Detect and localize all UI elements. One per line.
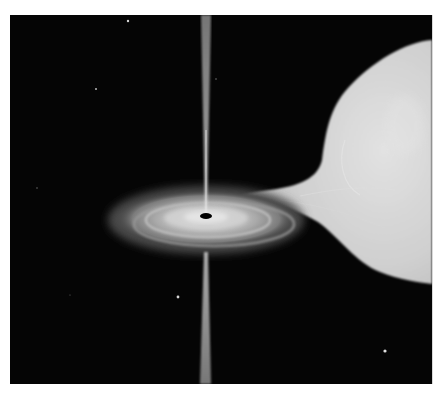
star-icon xyxy=(95,88,97,90)
illustration-svg xyxy=(10,15,432,384)
star-icon xyxy=(383,349,386,352)
space-illustration xyxy=(10,15,433,384)
star-icon xyxy=(69,294,70,295)
star-icon xyxy=(127,20,129,22)
star-icon xyxy=(36,187,37,188)
black-hole xyxy=(200,213,212,219)
star-icon xyxy=(177,296,180,299)
star-icon xyxy=(215,78,216,79)
